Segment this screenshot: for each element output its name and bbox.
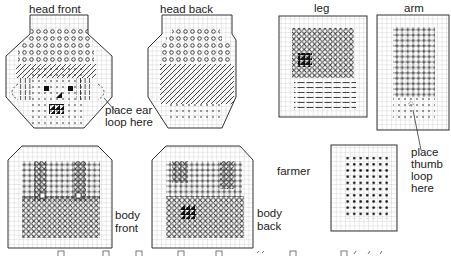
legend-mark (257, 251, 264, 253)
legend-square-icon (290, 251, 296, 256)
arm-label: arm (404, 2, 424, 15)
legend (58, 251, 382, 256)
legend-square-icon (58, 251, 64, 256)
body-back-piece (145, 140, 260, 250)
legend-square-icon (103, 251, 109, 256)
arm-piece (377, 15, 449, 150)
pattern-diagram (0, 0, 451, 256)
legend-square-icon (341, 251, 347, 256)
head-back-piece (140, 0, 240, 135)
body-front-label: body front (115, 209, 140, 235)
ear-loop-note: place ear loop here (105, 104, 153, 128)
thumb-loop-note: place thumb loop here (411, 146, 443, 194)
body-front-piece (0, 140, 120, 250)
legend-square-icon (178, 251, 184, 256)
leg-piece (279, 16, 367, 117)
leg-label: leg (314, 2, 329, 15)
farmer-label: farmer (277, 165, 310, 178)
body-back-label: body back (257, 207, 282, 233)
head-front-piece (0, 0, 120, 135)
legend-mark (354, 251, 382, 254)
legend-square-icon (136, 251, 142, 256)
head-back-label: head back (160, 3, 213, 16)
legend-square-icon (216, 251, 222, 256)
head-front-label: head front (29, 3, 81, 16)
farmer-piece (331, 145, 397, 231)
